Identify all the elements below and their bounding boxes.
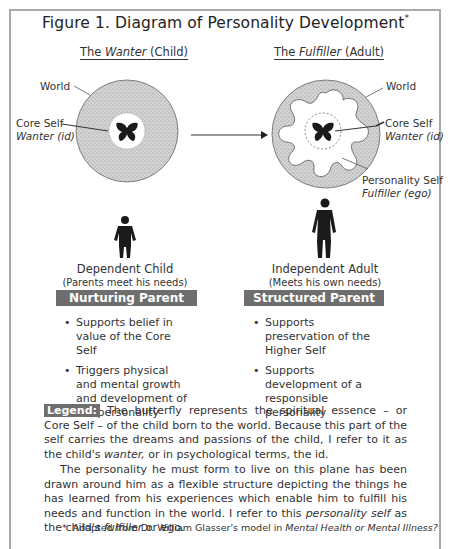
caption-dependent-child: Dependent Child xyxy=(55,262,195,276)
adult-figure-icon xyxy=(312,199,336,259)
subcaption-dependent-child: (Parents meet his needs) xyxy=(55,277,195,288)
structured-parent-bar: Structured Parent xyxy=(244,290,384,306)
footnote: * Adapted from Dr. William Glasser's mod… xyxy=(62,522,438,533)
left-world-circle xyxy=(62,80,178,182)
development-arrow xyxy=(191,131,268,139)
label-world-right: World xyxy=(386,80,416,93)
label-core-self-left: Core Self Wanter (id) xyxy=(16,117,75,143)
list-item: Supports preservation of the Higher Self xyxy=(251,316,386,358)
legend-paragraph: Legend: The butterfly represents the spi… xyxy=(44,404,407,462)
child-figure-icon xyxy=(114,216,136,258)
subcaption-independent-adult: (Meets his own needs) xyxy=(255,277,395,288)
legend-badge: Legend: xyxy=(44,404,100,417)
nurturing-parent-bar: Nurturing Parent xyxy=(56,290,197,306)
label-personality-self: Personality Self Fulfiller (ego) xyxy=(362,174,443,200)
label-core-self-right: Core Self Wanter (id) xyxy=(385,117,444,143)
label-world-left: World xyxy=(40,80,70,93)
caption-independent-adult: Independent Adult xyxy=(255,262,395,276)
list-item: Supports belief in value of the Core Sel… xyxy=(62,316,192,358)
right-world-circle xyxy=(272,80,384,188)
